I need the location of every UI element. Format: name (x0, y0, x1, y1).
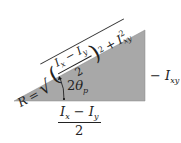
radicand-denominator: 2 (72, 63, 85, 79)
bottom-denominator: 2 (75, 123, 83, 137)
bottom-label: Ix − Iy 2 (58, 105, 101, 137)
angle-arrow-bottom (63, 98, 65, 100)
right-side-label: − Ixy (150, 69, 179, 85)
bottom-fraction: Ix − Iy 2 (58, 105, 101, 137)
mohr-triangle-diagram: R = √ ( Ix − Iy 2 )2 + I2xy − Ixy 2θp Ix… (0, 0, 181, 143)
bottom-numerator: Ix − Iy (58, 105, 101, 123)
angle-label: 2θp (67, 79, 88, 95)
